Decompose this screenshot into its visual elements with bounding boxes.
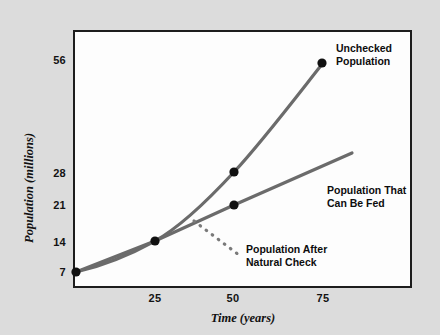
x-axis-tick-25: 25 (135, 292, 175, 304)
annotation-line-2: Population (336, 55, 392, 68)
annotation-line-2: Natural Check (246, 256, 327, 269)
y-axis-tick-7: 7 (30, 266, 66, 278)
x-axis-tick-50: 50 (213, 292, 253, 304)
data-point-marker (229, 167, 238, 176)
series-line-population-after-natural-check (194, 221, 239, 255)
annotation-unchecked-population: Unchecked Population (336, 42, 392, 68)
data-point-marker (71, 267, 80, 276)
x-axis-title: Time (years) (143, 311, 343, 326)
annotation-population-can-be-fed: Population That Can Be Fed (327, 184, 406, 210)
y-axis-title: Population (millions) (22, 133, 37, 243)
data-point-marker (150, 236, 159, 245)
annotation-line-2: Can Be Fed (327, 197, 406, 210)
x-axis-tick-75: 75 (303, 292, 343, 304)
annotation-population-after-natural-check: Population After Natural Check (246, 243, 327, 269)
data-point-marker (229, 200, 238, 209)
series-line-unchecked-population (76, 63, 323, 272)
annotation-line-1: Population That (327, 184, 406, 197)
y-axis-tick-56: 56 (30, 54, 66, 66)
annotation-line-1: Population After (246, 243, 327, 256)
annotation-line-1: Unchecked (336, 42, 392, 55)
chart-figure: 56 28 21 14 7 25 50 75 Time (years) Popu… (0, 0, 440, 335)
data-point-marker (317, 58, 326, 67)
